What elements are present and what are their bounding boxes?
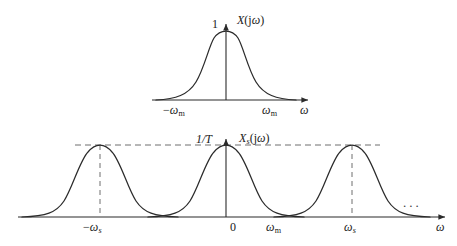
bottom-tick-label-omega-m: ωm xyxy=(266,221,281,235)
bottom-axis-label-omega: ω xyxy=(436,221,444,233)
bottom-peak-value-label: 1/T xyxy=(196,133,212,145)
continuation-ellipsis: ... xyxy=(403,196,422,209)
bottom-tick-label-omega-s: ωs xyxy=(344,221,356,235)
sampling-spectrum-figure: 1 X(jω) −ωm ωm ω 1/T Xs(jω) −ωs 0 ωm ωs … xyxy=(0,0,457,246)
top-peak-value-label: 1 xyxy=(212,18,218,30)
bottom-function-label: Xs(jω) xyxy=(239,132,270,146)
bottom-plot-group xyxy=(18,139,445,217)
top-function-label: X(jω) xyxy=(237,14,264,26)
top-tick-label-neg-omega-m: −ωm xyxy=(163,104,185,118)
bottom-origin-label: 0 xyxy=(230,221,236,233)
figure-canvas xyxy=(0,0,457,246)
top-plot-group xyxy=(152,24,308,100)
bottom-tick-label-neg-omega-s: −ωs xyxy=(83,221,102,235)
top-axis-label-omega: ω xyxy=(300,104,308,116)
top-tick-label-omega-m: ωm xyxy=(262,104,277,118)
